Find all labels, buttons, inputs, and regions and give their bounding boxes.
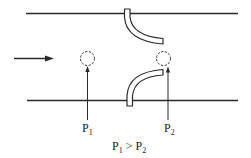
relation-right-subscript: 2 xyxy=(142,146,146,155)
p2-pointer-arrow-icon xyxy=(166,67,170,121)
flow-direction-arrow-icon xyxy=(14,56,54,62)
pressure-point-p1-marker xyxy=(81,52,95,66)
label-p1: P1 xyxy=(82,122,93,137)
nozzle-top-piece xyxy=(125,9,164,44)
label-p1-base: P xyxy=(82,121,89,135)
label-p2-base: P xyxy=(164,121,171,135)
label-p2: P2 xyxy=(164,122,175,137)
pressure-point-p2-marker xyxy=(157,52,171,66)
relation-operator: > xyxy=(126,139,133,153)
label-p1-subscript: 1 xyxy=(89,128,93,137)
relation-left-subscript: 1 xyxy=(119,146,123,155)
p1-pointer-arrow-icon xyxy=(85,66,89,120)
label-p2-subscript: 2 xyxy=(171,128,175,137)
pressure-relation: P1 > P2 xyxy=(112,140,146,155)
nozzle-flow-diagram xyxy=(0,0,251,158)
relation-left-base: P xyxy=(112,139,119,153)
